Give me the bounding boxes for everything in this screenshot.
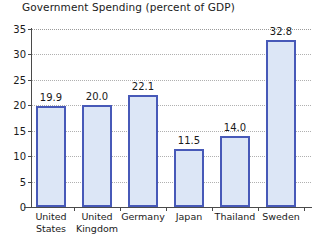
x-axis-category-label-line: Germany: [120, 211, 166, 223]
x-axis-tick-mark: [120, 207, 121, 211]
x-axis-tick-mark: [166, 207, 167, 211]
x-axis-category-label-line: United: [74, 211, 120, 223]
x-axis-category-label: Japan: [166, 211, 212, 223]
x-axis-category-label-line: Japan: [166, 211, 212, 223]
x-axis-category-label-line: States: [28, 223, 74, 235]
x-axis-tick-mark: [304, 207, 305, 211]
x-axis-category-label-line: Kingdom: [74, 223, 120, 235]
bar-value-label: 19.9: [29, 92, 73, 103]
x-axis-tick-mark: [212, 207, 213, 211]
bar-value-label: 14.0: [213, 122, 257, 133]
y-axis-tick-label: 10: [2, 151, 26, 162]
x-axis-category-label: UnitedKingdom: [74, 211, 120, 234]
y-axis-tick-label: 20: [2, 100, 26, 111]
y-axis-tick-label: 5: [2, 176, 26, 187]
x-axis-category-label: Germany: [120, 211, 166, 223]
bar-value-label: 32.8: [259, 26, 303, 37]
y-axis-tick-label: 15: [2, 125, 26, 136]
bar: [128, 95, 158, 207]
x-axis-tick-mark: [258, 207, 259, 211]
x-axis-line: [24, 207, 312, 208]
bar: [174, 149, 204, 207]
bar-value-label: 20.0: [75, 91, 119, 102]
y-axis-tick-label: 25: [2, 74, 26, 85]
x-axis-category-label-line: Sweden: [258, 211, 304, 223]
bar-chart: Government Spending (percent of GDP) 051…: [0, 0, 316, 248]
x-axis-tick-mark: [74, 207, 75, 211]
y-axis-tick-label: 35: [2, 24, 26, 35]
plot-area: [32, 29, 311, 207]
bar-value-label: 22.1: [121, 81, 165, 92]
x-axis-category-label-line: Thailand: [212, 211, 258, 223]
y-axis-tick-label: 30: [2, 49, 26, 60]
bar: [220, 136, 250, 207]
y-axis-tick-label: 0: [2, 202, 26, 213]
x-axis-category-label-line: United: [28, 211, 74, 223]
x-axis-category-label: Sweden: [258, 211, 304, 223]
bar: [82, 105, 112, 207]
x-axis-category-label: Thailand: [212, 211, 258, 223]
y-axis-tick-labels: 05101520253035: [0, 0, 26, 248]
bar: [36, 106, 66, 207]
x-axis-category-label: UnitedStates: [28, 211, 74, 234]
bar-value-label: 11.5: [167, 135, 211, 146]
bar: [266, 40, 296, 207]
chart-title: Government Spending (percent of GDP): [22, 1, 235, 13]
